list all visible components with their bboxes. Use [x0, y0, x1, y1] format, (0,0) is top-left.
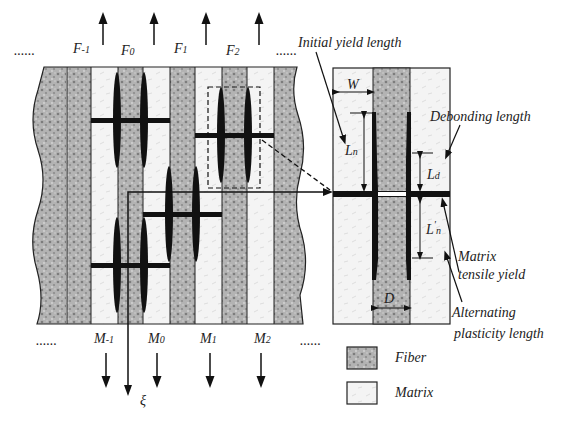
- legend-fiber-label: Fiber: [395, 351, 426, 365]
- label-Ln: Ln: [345, 144, 358, 158]
- label-matrix-tensile-yield-2: tensile yield: [458, 268, 525, 282]
- label-debonding-length: Debonding length: [430, 110, 531, 124]
- label-M2: M2: [254, 332, 271, 346]
- dots-top-left: ......: [14, 44, 35, 58]
- label-M0: M0: [148, 332, 165, 346]
- legend-fiber-swatch: [347, 347, 377, 369]
- label-F-1: F-1: [73, 42, 90, 56]
- label-Lprime-n: L'n: [426, 220, 441, 237]
- label-matrix-tensile-yield-1: Matrix: [458, 250, 496, 264]
- legend-matrix-label: Matrix: [395, 386, 433, 400]
- label-W: W: [347, 78, 359, 92]
- label-M1: M1: [200, 332, 217, 346]
- label-alternating-2: plasticity length: [454, 327, 544, 341]
- legend-matrix-swatch: [347, 382, 377, 404]
- label-M-1: M-1: [94, 332, 114, 346]
- detail-panel: [316, 52, 462, 324]
- dots-bottom-left: ......: [36, 334, 57, 348]
- label-Ld: Ld: [427, 168, 440, 182]
- label-F1: F1: [174, 42, 188, 56]
- tension-arrows-bottom: [106, 353, 261, 382]
- label-F0: F0: [121, 44, 135, 58]
- label-F2: F2: [226, 44, 240, 58]
- dots-top-right: ......: [276, 44, 297, 58]
- diagram-canvas: [0, 0, 569, 427]
- label-D: D: [384, 292, 394, 306]
- label-alternating-1: Alternating: [452, 306, 516, 320]
- label-initial-yield-length: Initial yield length: [298, 36, 401, 50]
- composite-panel: [30, 67, 310, 324]
- label-xi: ξ: [140, 394, 146, 408]
- dots-bottom-right: ......: [300, 334, 321, 348]
